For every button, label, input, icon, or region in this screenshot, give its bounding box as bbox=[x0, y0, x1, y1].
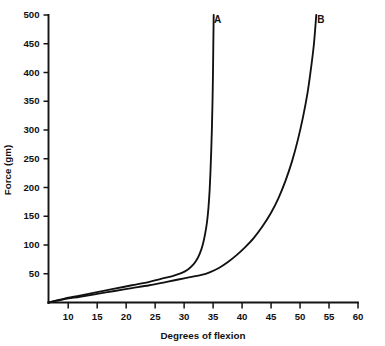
x-tick-label: 50 bbox=[295, 311, 306, 322]
y-axis-title: Force (gm) bbox=[2, 145, 13, 196]
x-tick-label: 45 bbox=[266, 311, 277, 322]
x-tick-label: 10 bbox=[63, 311, 74, 322]
y-tick-label: 100 bbox=[23, 239, 39, 250]
x-tick-label: 30 bbox=[179, 311, 190, 322]
y-tick-label: 300 bbox=[23, 124, 39, 135]
x-tick-label: 60 bbox=[353, 311, 364, 322]
x-tick-label: 25 bbox=[150, 311, 161, 322]
series-label-a: A bbox=[214, 14, 221, 25]
y-tick-label: 250 bbox=[23, 153, 39, 164]
series-label-b: B bbox=[317, 14, 324, 25]
y-tick-label: 150 bbox=[23, 210, 39, 221]
y-tick-label: 50 bbox=[29, 268, 40, 279]
chart-container: 50100150200250300350400450500 1015202530… bbox=[0, 0, 385, 346]
x-axis-title: Degrees of flexion bbox=[161, 330, 246, 341]
x-tick-label: 15 bbox=[92, 311, 103, 322]
force-flexion-line-chart: 50100150200250300350400450500 1015202530… bbox=[0, 0, 385, 346]
chart-background bbox=[0, 0, 385, 346]
y-tick-label: 500 bbox=[23, 9, 39, 20]
x-tick-label: 40 bbox=[237, 311, 248, 322]
x-tick-label: 55 bbox=[324, 311, 335, 322]
x-tick-label: 20 bbox=[121, 311, 132, 322]
y-tick-label: 200 bbox=[23, 182, 39, 193]
x-tick-label: 35 bbox=[208, 311, 219, 322]
y-tick-label: 350 bbox=[23, 95, 39, 106]
y-tick-label: 450 bbox=[23, 38, 39, 49]
y-tick-label: 400 bbox=[23, 67, 39, 78]
